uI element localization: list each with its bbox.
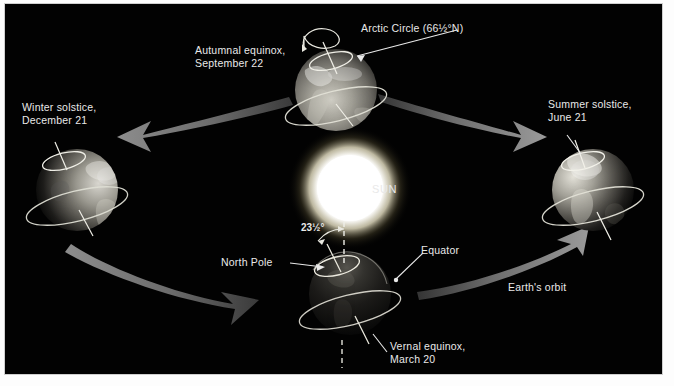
dot-equator (394, 278, 398, 282)
globe-winter-solstice (23, 142, 131, 236)
label-equator: Equator (421, 244, 459, 257)
label-summer-solstice: Summer solstice, June 21 (548, 98, 632, 124)
label-winter-solstice: Winter solstice, December 21 (22, 101, 96, 127)
leader-vernal-equinox (373, 334, 387, 352)
label-sun: SUN (372, 183, 397, 196)
rotation-arrow-path (303, 29, 339, 49)
seasons-diagram: Arctic Circle (66½°N) Autumnal equinox, … (0, 0, 674, 386)
globe-autumnal-equinox (282, 29, 390, 133)
label-north-pole: North Pole (221, 256, 273, 269)
orbit-arrow-top-right (378, 94, 547, 152)
leader-summer-solstice (567, 135, 581, 154)
label-axial-tilt: 23½° (301, 221, 324, 234)
leader-equator (396, 253, 423, 279)
diagram-canvas (5, 4, 662, 374)
label-autumnal-equinox: Autumnal equinox, September 22 (195, 44, 285, 70)
label-vernal-equinox: Vernal equinox, March 20 (390, 340, 465, 366)
space-background: Arctic Circle (66½°N) Autumnal equinox, … (5, 4, 662, 374)
label-earths-orbit: Earth's orbit (508, 281, 566, 294)
orbit-arrow-top-left (117, 97, 293, 152)
label-arctic-circle: Arctic Circle (66½°N) (361, 22, 463, 35)
globe-summer-solstice (539, 140, 647, 240)
